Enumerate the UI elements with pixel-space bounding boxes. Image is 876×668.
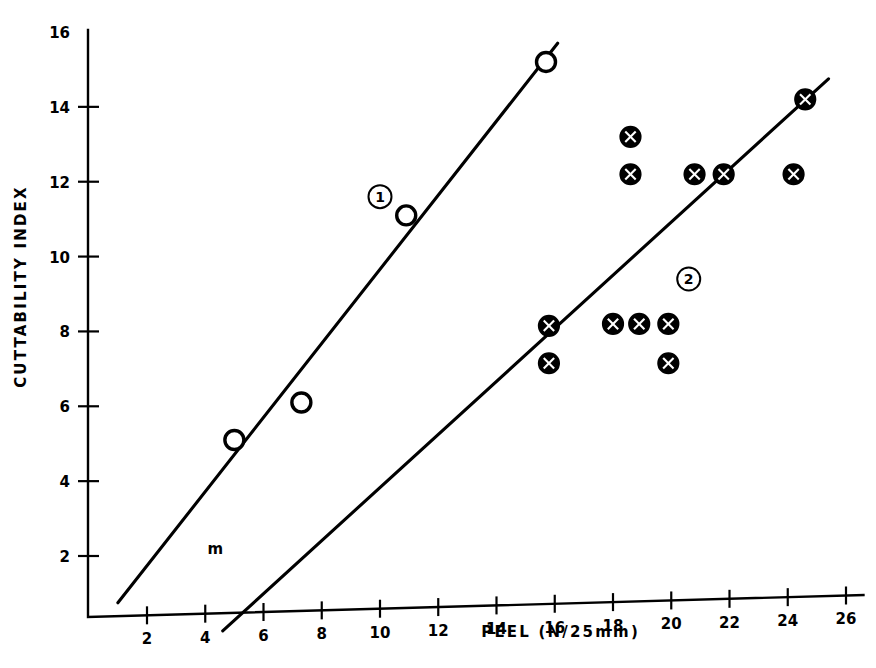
plot-area: 2468101214161820222426246810121416PEEL (… [0, 0, 876, 668]
svg-text:2: 2 [684, 271, 694, 287]
x-tick-label-4: 4 [200, 629, 210, 647]
x-tick-label-22: 22 [719, 614, 740, 632]
annotation-stray-mark-0: m [208, 540, 224, 558]
data-point-crossed-1-1 [539, 353, 559, 373]
data-point-crossed-1-2 [603, 314, 623, 334]
data-point-open-0-0 [225, 430, 244, 449]
y-tick-label-2: 2 [60, 548, 70, 566]
x-tick-label-12: 12 [428, 622, 449, 640]
y-tick-label-4: 4 [60, 473, 70, 491]
data-point-crossed-1-4 [620, 164, 640, 184]
data-point-open-0-3 [537, 52, 556, 71]
svg-text:1: 1 [375, 189, 385, 205]
data-point-crossed-1-9 [714, 164, 734, 184]
fit-line-1 [118, 43, 558, 603]
data-point-crossed-1-5 [629, 314, 649, 334]
y-tick-label-6: 6 [60, 398, 70, 416]
x-tick-label-6: 6 [258, 627, 268, 645]
x-axis-title: PEEL (N/25mm) [481, 623, 640, 641]
data-point-crossed-1-6 [658, 314, 678, 334]
data-point-open-0-1 [292, 393, 311, 412]
y-tick-label-8: 8 [60, 323, 70, 341]
cuttability-index-vs-peel-chart: 2468101214161820222426246810121416PEEL (… [0, 0, 876, 668]
data-point-crossed-1-0 [539, 316, 559, 336]
y-axis-ticks: 246810121416 [49, 24, 99, 566]
x-tick-label-2: 2 [142, 630, 152, 648]
axis-spine [88, 30, 863, 617]
data-point-crossed-1-3 [620, 127, 640, 147]
series-1: 1 [118, 43, 558, 603]
x-tick-label-8: 8 [317, 625, 327, 643]
y-tick-label-16: 16 [49, 24, 70, 42]
x-tick-label-26: 26 [836, 610, 857, 628]
x-tick-label-24: 24 [777, 612, 798, 630]
x-tick-label-10: 10 [370, 624, 391, 642]
data-point-crossed-1-8 [685, 164, 705, 184]
data-point-crossed-1-10 [784, 164, 804, 184]
data-point-crossed-1-11 [795, 89, 815, 109]
series-annotation-2: 2 [677, 268, 700, 291]
y-tick-label-10: 10 [49, 249, 70, 267]
series-annotation-1: 1 [369, 185, 392, 208]
x-tick-label-20: 20 [661, 615, 682, 633]
y-tick-label-12: 12 [49, 174, 70, 192]
data-point-crossed-1-7 [658, 353, 678, 373]
data-point-open-0-2 [397, 206, 416, 225]
y-tick-label-14: 14 [49, 99, 70, 117]
y-axis-title: CUTTABILITY INDEX [12, 185, 30, 388]
